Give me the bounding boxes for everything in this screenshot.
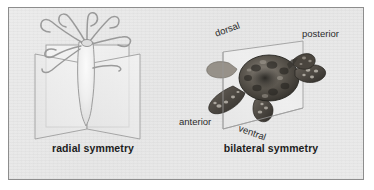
symmetry-figure: radial symmetry: [0, 0, 374, 190]
radial-symmetry-stage: [9, 8, 177, 140]
radial-symmetry-illustration: [9, 8, 177, 140]
radial-organism-center: [82, 40, 93, 47]
direction-label-posterior: posterior: [302, 28, 339, 39]
caption-radial-symmetry: radial symmetry: [9, 142, 177, 154]
panel-bilateral-symmetry: dorsal posterior anterior ventral bilate…: [177, 8, 364, 179]
panel-radial-symmetry: radial symmetry: [9, 8, 177, 179]
direction-label-anterior: anterior: [179, 116, 211, 127]
figure-plate: radial symmetry: [8, 7, 364, 180]
caption-bilateral-symmetry: bilateral symmetry: [177, 142, 364, 154]
